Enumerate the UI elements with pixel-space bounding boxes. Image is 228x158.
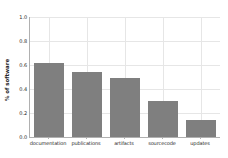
plot-area xyxy=(29,17,220,138)
y-tick-label: 0.8 xyxy=(3,39,27,44)
x-tick-mark xyxy=(200,137,201,139)
bar-documentation xyxy=(34,63,64,137)
x-tick-mark xyxy=(86,137,87,139)
x-tick-mark xyxy=(162,137,163,139)
x-tick-mark xyxy=(48,137,49,139)
y-tick-label: 1.0 xyxy=(3,15,27,20)
y-tick-label: 0.0 xyxy=(3,135,27,140)
y-tick-label: 0.6 xyxy=(3,63,27,68)
bar-artifacts xyxy=(110,78,140,137)
x-tick-label-updates: updates xyxy=(170,140,228,146)
y-tick-label: 0.2 xyxy=(3,111,27,116)
gridline-vertical xyxy=(201,17,202,137)
y-axis-ticks: 1.0 0.8 0.6 0.4 0.2 0.0 xyxy=(0,0,27,158)
y-tick-label: 0.4 xyxy=(3,87,27,92)
x-tick-mark xyxy=(124,137,125,139)
bar-publications xyxy=(72,72,102,137)
bar-sourcecode xyxy=(148,101,178,137)
bar-updates xyxy=(186,120,216,137)
bar-chart-figure: % of software 1.0 0.8 0.6 0.4 0.2 0.0 xyxy=(0,0,228,158)
